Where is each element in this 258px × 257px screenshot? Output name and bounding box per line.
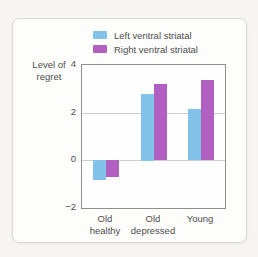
y-tick-label--2: −2 — [54, 201, 76, 213]
legend-item-right-ventral: Right ventral striatal — [93, 42, 198, 56]
bar-series1-cat2 — [201, 80, 214, 160]
y-tick-label-0: 0 — [54, 153, 76, 165]
chart-legend: Left ventral striatal Right ventral stri… — [93, 28, 198, 56]
legend-item-left-ventral: Left ventral striatal — [93, 28, 198, 42]
legend-label-right-ventral: Right ventral striatal — [114, 44, 198, 55]
legend-swatch-left-ventral — [93, 31, 107, 39]
x-category-label-2: Young — [165, 213, 235, 225]
legend-label-left-ventral: Left ventral striatal — [114, 30, 192, 41]
chart-card: Left ventral striatal Right ventral stri… — [12, 18, 247, 243]
plot-area — [81, 64, 226, 209]
bar-series0-cat1 — [141, 94, 154, 161]
y-tick-label-4: 4 — [54, 58, 76, 70]
y-tick-label-2: 2 — [54, 106, 76, 118]
bar-series0-cat2 — [188, 109, 201, 160]
bar-series0-cat0 — [93, 160, 106, 180]
bar-series1-cat1 — [154, 84, 167, 160]
legend-swatch-right-ventral — [93, 45, 107, 53]
bar-series1-cat0 — [106, 160, 119, 177]
